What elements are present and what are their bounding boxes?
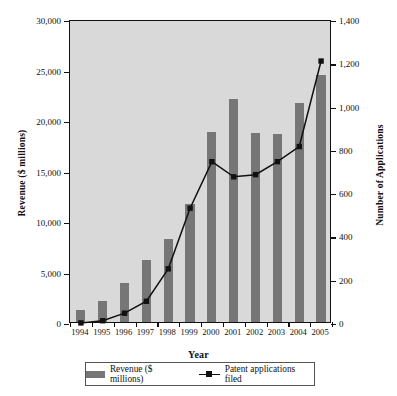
y-tick-label-right: 400 — [339, 232, 353, 242]
legend-item-revenue: Revenue ($ millions) — [86, 364, 188, 384]
y-tick-label-right: 800 — [339, 146, 353, 156]
tick-mark — [331, 151, 336, 152]
line-marker — [275, 159, 280, 164]
tick-mark — [64, 173, 69, 174]
line-marker — [122, 310, 127, 315]
y-tick-label-right: 200 — [339, 276, 353, 286]
line-marker — [144, 299, 149, 304]
tick-mark — [331, 21, 336, 22]
tick-mark — [64, 72, 69, 73]
line-marker — [318, 58, 323, 63]
tick-mark — [331, 281, 336, 282]
line-path — [81, 61, 321, 323]
y-tick-label-left: 30,000 — [36, 16, 61, 26]
y-axis-title-right: Number of Applications — [375, 110, 385, 240]
line-series — [70, 21, 330, 322]
y-tick-label-left: 10,000 — [36, 218, 61, 228]
tick-mark — [331, 108, 336, 109]
y-tick-label-left: 25,000 — [36, 67, 61, 77]
y-tick-label-left: 0 — [57, 319, 62, 329]
tick-mark — [64, 21, 69, 22]
x-axis-title: Year — [0, 349, 397, 360]
y-tick-label-right: 1,400 — [339, 16, 359, 26]
line-marker — [78, 320, 83, 325]
line-marker — [253, 172, 258, 177]
y-tick-label-right: 1,200 — [339, 59, 359, 69]
legend-item-patents: Patent applications filed — [199, 364, 314, 384]
line-marker — [100, 318, 105, 323]
legend-label-revenue: Revenue ($ millions) — [110, 364, 188, 384]
tick-mark — [331, 194, 336, 195]
tick-mark — [331, 64, 336, 65]
tick-mark — [64, 122, 69, 123]
chart-legend: Revenue ($ millions) Patent applications… — [85, 362, 315, 386]
y-tick-label-right: 1,000 — [339, 103, 359, 113]
y-tick-label-left: 5,000 — [41, 269, 61, 279]
y-tick-label-left: 15,000 — [36, 168, 61, 178]
line-marker — [209, 159, 214, 164]
bar-swatch-icon — [86, 371, 105, 378]
line-marker — [231, 174, 236, 179]
x-tick-label: 2005 — [305, 327, 335, 337]
legend-label-patents: Patent applications filed — [225, 364, 314, 384]
tick-mark — [64, 324, 69, 325]
line-marker — [297, 144, 302, 149]
line-marker-icon — [199, 370, 220, 379]
y-tick-label-left: 20,000 — [36, 117, 61, 127]
tick-mark — [331, 237, 336, 238]
y-tick-label-right: 600 — [339, 189, 353, 199]
y-tick-label-right: 0 — [339, 319, 344, 329]
chart-container: Revenue ($ millions) Number of Applicati… — [0, 0, 397, 396]
y-axis-title-left: Revenue ($ millions) — [17, 108, 27, 238]
line-marker — [187, 206, 192, 211]
tick-mark — [64, 223, 69, 224]
line-marker — [166, 266, 171, 271]
plot-area: 05,00010,00015,00020,00025,00030,000 020… — [69, 20, 331, 323]
tick-mark — [64, 274, 69, 275]
